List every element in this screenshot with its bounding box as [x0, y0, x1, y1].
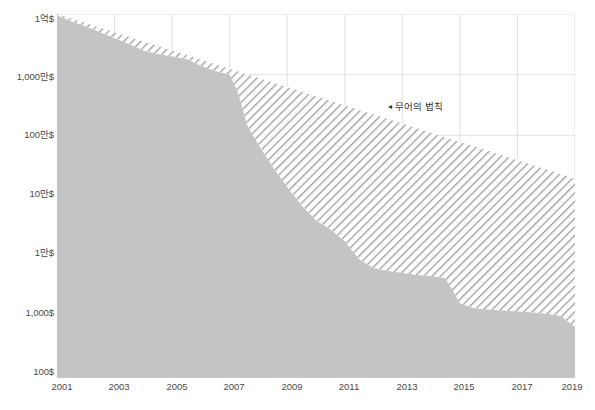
x-tick-label: 2003 [99, 381, 139, 393]
y-axis: 1억$ 1,000만$ 100만$ 10만$ 1만$ 1,000$ 100$ [0, 0, 54, 410]
y-tick-label: 1억$ [2, 14, 54, 24]
moore-law-annotation: ◂무어의 법칙 [388, 101, 443, 113]
x-tick-label: 2011 [329, 381, 369, 393]
x-tick-label: 2001 [42, 381, 82, 393]
x-axis: 2001 2003 2005 2007 2009 2011 2013 2015 … [0, 381, 595, 403]
chart-canvas [57, 14, 575, 378]
y-tick-label: 1,000만$ [2, 72, 54, 82]
x-tick-label: 2015 [444, 381, 484, 393]
x-tick-label: 2017 [502, 381, 542, 393]
plot-area [57, 14, 575, 378]
left-triangle-icon: ◂ [388, 102, 392, 111]
x-tick-label: 2019 [552, 381, 592, 393]
x-tick-label: 2009 [272, 381, 312, 393]
y-tick-label: 1,000$ [2, 308, 54, 318]
x-tick-label: 2005 [157, 381, 197, 393]
cost-decline-chart: 1억$ 1,000만$ 100만$ 10만$ 1만$ 1,000$ 100$ [0, 0, 595, 410]
y-tick-label: 10만$ [2, 189, 54, 199]
x-tick-label: 2007 [214, 381, 254, 393]
y-tick-label: 1만$ [2, 248, 54, 258]
x-tick-label: 2013 [387, 381, 427, 393]
y-tick-label: 100$ [2, 367, 54, 377]
y-tick-label: 100만$ [2, 130, 54, 140]
annotation-label: 무어의 법칙 [395, 101, 443, 112]
